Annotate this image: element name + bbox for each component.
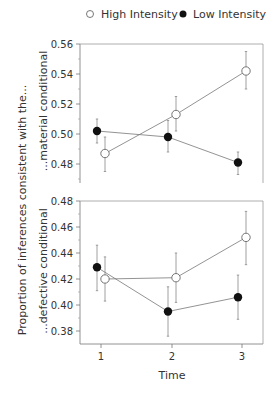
y-tick-label: 0.46 bbox=[51, 222, 73, 233]
y-tick-label: 0.38 bbox=[51, 326, 73, 337]
legend-low: Low Intensity bbox=[193, 8, 267, 21]
y-tick-label: 0.54 bbox=[51, 69, 73, 80]
x-tick-label: 1 bbox=[98, 351, 104, 362]
x-axis-label: Time bbox=[158, 369, 186, 382]
filled-circle-marker bbox=[164, 133, 172, 141]
x-tick-label: 2 bbox=[169, 351, 175, 362]
y-tick-label: 0.48 bbox=[51, 159, 73, 170]
open-circle-marker bbox=[242, 233, 250, 241]
x-tick-label: 3 bbox=[239, 351, 245, 362]
y-tick-label: 0.50 bbox=[51, 129, 73, 140]
open-circle-marker bbox=[242, 67, 250, 75]
open-circle-marker bbox=[101, 149, 109, 157]
top-panel-label: ...material conditional bbox=[37, 51, 50, 172]
filled-circle-marker bbox=[234, 293, 242, 301]
open-circle-marker bbox=[172, 110, 180, 118]
series-line bbox=[105, 237, 246, 279]
legend: High Intensity Low Intensity bbox=[87, 8, 267, 21]
open-circle-marker bbox=[101, 275, 109, 283]
chart: High Intensity Low Intensity Proportion … bbox=[0, 0, 280, 394]
open-circle-icon bbox=[87, 11, 94, 18]
y-tick-label: 0.48 bbox=[51, 196, 73, 207]
bottom-panel-label: ...defective conditional bbox=[37, 208, 50, 334]
filled-circle-marker bbox=[164, 307, 172, 315]
y-tick-label: 0.44 bbox=[51, 248, 73, 259]
filled-circle-marker bbox=[93, 263, 101, 271]
filled-circle-marker bbox=[93, 127, 101, 135]
y-axis-label: Proportion of inferences consistent with… bbox=[16, 85, 29, 336]
series-line bbox=[97, 267, 238, 311]
y-tick-label: 0.42 bbox=[51, 274, 73, 285]
legend-high: High Intensity bbox=[101, 8, 178, 21]
y-tick-label: 0.56 bbox=[51, 39, 73, 50]
filled-circle-marker bbox=[234, 158, 242, 166]
y-tick-label: 0.40 bbox=[51, 300, 73, 311]
open-circle-marker bbox=[172, 274, 180, 282]
y-tick-label: 0.52 bbox=[51, 99, 73, 110]
filled-circle-icon bbox=[180, 11, 187, 18]
